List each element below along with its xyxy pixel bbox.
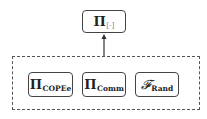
functionality-f-symbol: 𝓕 bbox=[141, 77, 151, 93]
pi-symbol: Π bbox=[93, 14, 105, 29]
node-pi-copee: ΠCOPEe bbox=[28, 72, 73, 97]
pi-symbol: Π bbox=[30, 77, 42, 92]
node-subscript: Comm bbox=[97, 84, 124, 93]
node-f-rand: 𝓕Rand bbox=[135, 72, 179, 97]
node-pi-comm: ΠComm bbox=[82, 72, 126, 97]
top-node-subscript: [·] bbox=[106, 21, 114, 30]
pi-symbol: Π bbox=[84, 77, 96, 92]
node-subscript: Rand bbox=[151, 84, 173, 93]
node-subscript: COPEe bbox=[43, 84, 72, 93]
top-node-pi: Π[·] bbox=[82, 10, 126, 33]
